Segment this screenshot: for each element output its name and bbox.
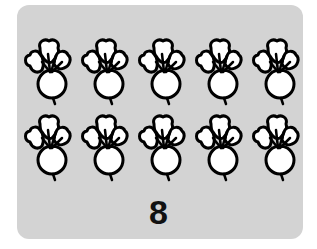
- radish-icon: [193, 112, 245, 182]
- radish-icon: [79, 112, 131, 182]
- radish-row-1: [22, 36, 302, 108]
- radish-icon: [193, 36, 245, 106]
- radish-row-2: [22, 112, 302, 184]
- radish-icon: [136, 112, 188, 182]
- radish-icon: [22, 112, 74, 182]
- count-label: 8: [0, 193, 317, 232]
- radish-grid: [22, 36, 302, 188]
- radish-icon: [22, 36, 74, 106]
- radish-icon: [136, 36, 188, 106]
- radish-icon: [250, 36, 302, 106]
- radish-icon: [79, 36, 131, 106]
- radish-icon: [250, 112, 302, 182]
